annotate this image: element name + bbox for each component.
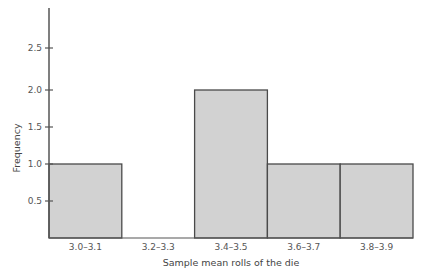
y-tick-label: 1.0 [28,159,43,169]
y-tick-label: 2.5 [28,43,42,53]
x-tick-label: 3.4–3.5 [214,242,247,252]
x-tick-label: 3.0–3.1 [69,242,102,252]
y-axis-title: Frequency [11,123,22,172]
x-tick-label: 3.6–3.7 [287,242,320,252]
y-tick-label: 1.5 [28,122,42,132]
x-tick-label: 3.2–3.3 [142,242,175,252]
y-tick-label: 2.0 [28,85,43,95]
histogram-chart: 0.51.01.52.02.5 3.0–3.13.2–3.33.4–3.53.6… [0,0,422,279]
bar-3.6–3.7 [267,164,340,238]
x-axis-title: Sample mean rolls of the die [163,257,300,268]
x-tick-labels: 3.0–3.13.2–3.33.4–3.53.6–3.73.8–3.9 [69,242,394,252]
bar-3.4–3.5 [195,90,268,238]
x-tick-label: 3.8–3.9 [360,242,393,252]
bar-3.0–3.1 [49,164,122,238]
bars-group [49,90,413,238]
bar-3.8–3.9 [340,164,413,238]
y-tick-label: 0.5 [28,196,42,206]
